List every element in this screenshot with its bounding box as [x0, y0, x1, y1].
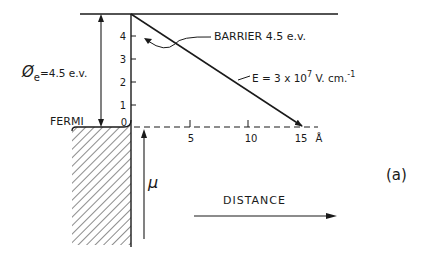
distance-arrow — [194, 213, 337, 219]
energy-barrier-diagram: 4 3 2 1 0 5 10 15 Å BARRIER 4.5 e.v. E =… — [0, 0, 429, 256]
x-axis-unit: Å — [316, 132, 323, 144]
y-tick-label-4: 4 — [120, 31, 126, 42]
x-tick-label-10: 10 — [245, 133, 258, 144]
work-function-arrow — [98, 14, 104, 127]
field-label-leader — [238, 76, 250, 80]
x-tick-label-15: 15 — [295, 133, 308, 144]
distance-label: DISTANCE — [223, 194, 286, 207]
work-function-label: Øe=4.5 e.v. — [21, 63, 87, 83]
mu-label: μ — [147, 173, 158, 192]
y-tick-label-3: 3 — [120, 54, 126, 65]
y-tick-label-1: 1 — [120, 100, 126, 111]
field-label: E = 3 x 107 V. cm.-1 — [252, 70, 355, 84]
x-axis-ticks — [190, 120, 248, 127]
y-axis-ticks — [131, 36, 136, 105]
panel-label: (a) — [386, 166, 407, 184]
metal-region — [72, 120, 131, 245]
fermi-label: FERMI — [50, 115, 84, 128]
barrier-label: BARRIER 4.5 e.v. — [214, 30, 306, 43]
x-tick-label-5: 5 — [188, 133, 194, 144]
mu-arrow — [141, 129, 147, 239]
y-tick-label-0: 0 — [121, 117, 127, 128]
y-tick-label-2: 2 — [120, 77, 126, 88]
